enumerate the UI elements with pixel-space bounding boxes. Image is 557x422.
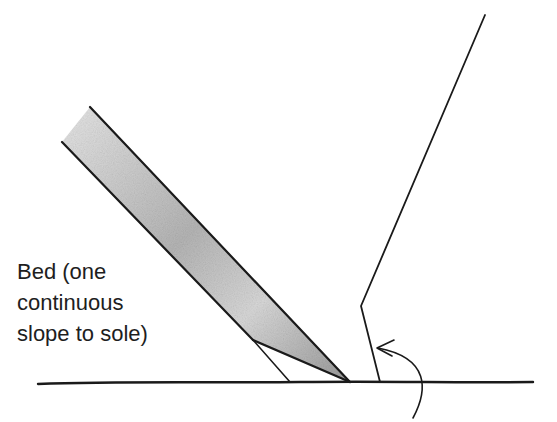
sole-line <box>38 382 533 384</box>
plane-blade-diagram <box>0 0 557 422</box>
bed-annotation-line-3: slope to sole) <box>17 318 148 349</box>
bed-annotation-line-2: continuous <box>17 287 148 318</box>
mouth-wall <box>361 15 485 382</box>
bed-annotation: Bed (one continuous slope to sole) <box>17 256 148 349</box>
bed-annotation-line-1: Bed (one <box>17 256 148 287</box>
